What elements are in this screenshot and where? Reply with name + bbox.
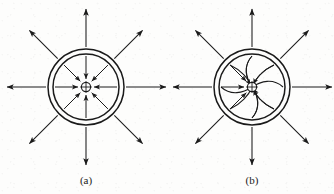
impeller-diagram-svg: (a)	[0, 0, 334, 194]
panel-b-caption: (b)	[246, 174, 259, 187]
figure-container: (a)	[0, 0, 334, 194]
panel-a-caption: (a)	[80, 174, 93, 187]
